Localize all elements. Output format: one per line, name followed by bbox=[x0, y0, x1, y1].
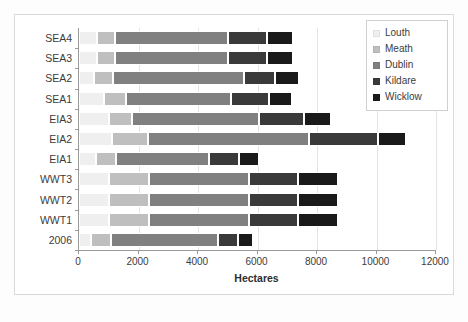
legend-label: Dublin bbox=[385, 57, 413, 73]
legend-label: Wicklow bbox=[385, 89, 422, 105]
bar-segment-louth[interactable] bbox=[79, 132, 112, 146]
y-tick-label: SEA1 bbox=[0, 89, 78, 109]
legend-swatch-icon bbox=[373, 62, 380, 69]
bar-segment-dublin[interactable] bbox=[149, 193, 249, 207]
x-tick-label: 6000 bbox=[227, 256, 287, 267]
caption-text bbox=[40, 303, 430, 312]
bar-row[interactable] bbox=[79, 230, 436, 250]
bar-segment-louth[interactable] bbox=[79, 92, 104, 106]
bar-segment-kildare[interactable] bbox=[218, 233, 238, 247]
x-tick-mark bbox=[197, 250, 198, 254]
x-tick-mark bbox=[316, 250, 317, 254]
bar-segment-meath[interactable] bbox=[97, 31, 115, 45]
bar-segment-louth[interactable] bbox=[79, 193, 109, 207]
bar-stack bbox=[79, 149, 436, 169]
bar-segment-meath[interactable] bbox=[109, 172, 149, 186]
legend-label: Meath bbox=[385, 41, 413, 57]
legend-item-kildare[interactable]: Kildare bbox=[373, 73, 443, 89]
bar-segment-dublin[interactable] bbox=[132, 112, 259, 126]
bar-segment-wicklow[interactable] bbox=[298, 193, 338, 207]
bar-segment-louth[interactable] bbox=[79, 31, 97, 45]
bar-segment-kildare[interactable] bbox=[249, 172, 298, 186]
bar-segment-kildare[interactable] bbox=[249, 193, 298, 207]
bar-segment-wicklow[interactable] bbox=[239, 152, 259, 166]
x-tick-label: 10000 bbox=[346, 256, 406, 267]
legend-label: Louth bbox=[385, 25, 410, 41]
bar-segment-meath[interactable] bbox=[104, 92, 126, 106]
bar-segment-wicklow[interactable] bbox=[378, 132, 406, 146]
bar-stack bbox=[79, 189, 436, 209]
bar-segment-kildare[interactable] bbox=[209, 152, 239, 166]
bar-segment-dublin[interactable] bbox=[126, 92, 231, 106]
bar-segment-dublin[interactable] bbox=[111, 233, 218, 247]
bar-row[interactable] bbox=[79, 129, 436, 149]
x-tick-mark bbox=[435, 250, 436, 254]
bar-segment-wicklow[interactable] bbox=[238, 233, 253, 247]
legend-swatch-icon bbox=[373, 30, 380, 37]
bar-segment-kildare[interactable] bbox=[309, 132, 378, 146]
x-tick-mark bbox=[376, 250, 377, 254]
bar-segment-louth[interactable] bbox=[79, 172, 109, 186]
y-tick-label: WWT3 bbox=[0, 169, 78, 189]
bar-segment-meath[interactable] bbox=[112, 132, 148, 146]
bar-segment-dublin[interactable] bbox=[113, 71, 244, 85]
bar-segment-dublin[interactable] bbox=[115, 31, 228, 45]
x-tick-label: 2000 bbox=[108, 256, 168, 267]
bar-segment-louth[interactable] bbox=[79, 51, 97, 65]
bar-segment-wicklow[interactable] bbox=[298, 213, 338, 227]
bar-segment-kildare[interactable] bbox=[228, 51, 267, 65]
bar-segment-meath[interactable] bbox=[94, 71, 113, 85]
bar-segment-kildare[interactable] bbox=[249, 213, 298, 227]
bar-segment-wicklow[interactable] bbox=[267, 31, 293, 45]
bar-segment-louth[interactable] bbox=[79, 152, 96, 166]
bar-segment-wicklow[interactable] bbox=[275, 71, 299, 85]
bar-segment-meath[interactable] bbox=[96, 152, 116, 166]
x-tick-mark bbox=[138, 250, 139, 254]
bar-segment-meath[interactable] bbox=[91, 233, 111, 247]
bar-row[interactable] bbox=[79, 169, 436, 189]
bar-segment-wicklow[interactable] bbox=[269, 92, 292, 106]
bar-segment-dublin[interactable] bbox=[149, 172, 249, 186]
bar-row[interactable] bbox=[79, 189, 436, 209]
legend-swatch-icon bbox=[373, 46, 380, 53]
bar-segment-wicklow[interactable] bbox=[298, 172, 338, 186]
bar-segment-meath[interactable] bbox=[109, 193, 149, 207]
legend-swatch-icon bbox=[373, 78, 380, 85]
bar-segment-dublin[interactable] bbox=[116, 152, 209, 166]
y-tick-label: WWT2 bbox=[0, 190, 78, 210]
bar-segment-kildare[interactable] bbox=[228, 31, 267, 45]
bar-segment-dublin[interactable] bbox=[115, 51, 228, 65]
x-tick-label: 8000 bbox=[286, 256, 346, 267]
bar-row[interactable] bbox=[79, 149, 436, 169]
bar-stack bbox=[79, 129, 436, 149]
chart-container: SEA4SEA3SEA2SEA1EIA3EIA2EIA1WWT3WWT2WWT1… bbox=[0, 0, 468, 322]
bar-segment-meath[interactable] bbox=[97, 51, 115, 65]
bar-segment-dublin[interactable] bbox=[149, 213, 249, 227]
bar-segment-louth[interactable] bbox=[79, 213, 109, 227]
x-tick-label: 4000 bbox=[167, 256, 227, 267]
legend-swatch-icon bbox=[373, 94, 380, 101]
bar-segment-wicklow[interactable] bbox=[304, 112, 331, 126]
bar-segment-kildare[interactable] bbox=[244, 71, 275, 85]
legend-item-wicklow[interactable]: Wicklow bbox=[373, 89, 443, 105]
bar-segment-meath[interactable] bbox=[109, 112, 132, 126]
y-tick-label: 2006 bbox=[0, 230, 78, 250]
bar-segment-louth[interactable] bbox=[79, 71, 94, 85]
bar-segment-kildare[interactable] bbox=[231, 92, 269, 106]
bar-row[interactable] bbox=[79, 210, 436, 230]
x-axis-title: Hectares bbox=[78, 272, 435, 284]
bar-segment-dublin[interactable] bbox=[148, 132, 309, 146]
bar-segment-louth[interactable] bbox=[79, 233, 91, 247]
legend-item-meath[interactable]: Meath bbox=[373, 41, 443, 57]
bar-row[interactable] bbox=[79, 109, 436, 129]
bar-segment-louth[interactable] bbox=[79, 112, 109, 126]
bar-segment-kildare[interactable] bbox=[259, 112, 304, 126]
x-tick-mark bbox=[78, 250, 79, 254]
legend-item-dublin[interactable]: Dublin bbox=[373, 57, 443, 73]
y-tick-label: EIA1 bbox=[0, 149, 78, 169]
legend-item-louth[interactable]: Louth bbox=[373, 25, 443, 41]
bar-segment-wicklow[interactable] bbox=[267, 51, 293, 65]
x-tick-label: 0 bbox=[48, 256, 108, 267]
legend-label: Kildare bbox=[385, 73, 416, 89]
bar-segment-meath[interactable] bbox=[109, 213, 149, 227]
